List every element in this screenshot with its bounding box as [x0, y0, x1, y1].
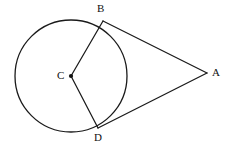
point-label-a: A — [212, 67, 220, 78]
point-label-d: D — [94, 132, 102, 143]
segment-center-to-b — [71, 21, 103, 76]
point-label-b: B — [97, 3, 104, 14]
segment-d-to-a — [98, 73, 207, 128]
segment-center-to-d — [71, 76, 98, 128]
center-point-dot — [69, 74, 73, 78]
geometry-canvas — [0, 0, 228, 150]
geometry-diagram: B A C D — [0, 0, 228, 150]
point-label-c: C — [57, 70, 64, 81]
